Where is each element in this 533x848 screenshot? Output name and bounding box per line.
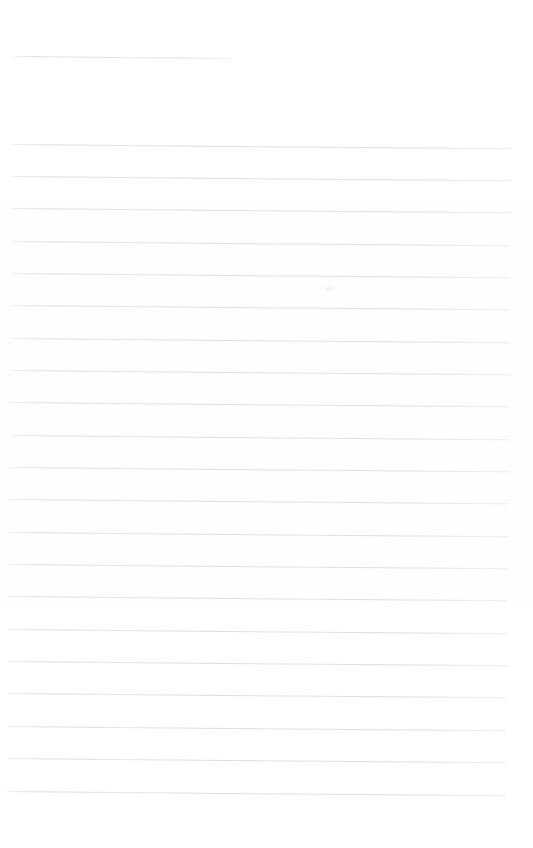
ruled-line (11, 338, 509, 343)
ruled-line (11, 305, 509, 310)
ruled-line (12, 208, 510, 213)
ruled-line (10, 499, 508, 504)
paper-surface (0, 0, 533, 848)
ruled-line (9, 596, 507, 601)
ruled-line (12, 273, 511, 278)
ruled-line (8, 726, 506, 731)
header-rule (14, 56, 230, 59)
ruled-line (7, 791, 505, 796)
ruled-line (10, 435, 508, 440)
ruled-line (8, 661, 507, 666)
ruled-line (8, 758, 507, 763)
ruled-line (11, 370, 510, 375)
ruled-line (8, 693, 506, 698)
ruled-line (13, 144, 512, 149)
ruled-line-layer (0, 0, 533, 848)
ruled-line (10, 532, 508, 537)
ruled-line (9, 629, 507, 634)
ruled-line (9, 564, 508, 569)
scan-artifact-speck (325, 286, 334, 291)
ruled-line (10, 467, 509, 472)
ruled-line (12, 241, 510, 246)
ruled-line (11, 402, 509, 407)
scanned-page (0, 0, 533, 848)
ruled-line (13, 176, 512, 181)
